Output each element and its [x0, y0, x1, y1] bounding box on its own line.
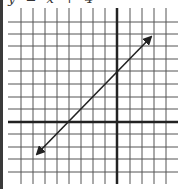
- coordinate-grid: [0, 0, 181, 189]
- graph-line-arrow: [37, 37, 151, 154]
